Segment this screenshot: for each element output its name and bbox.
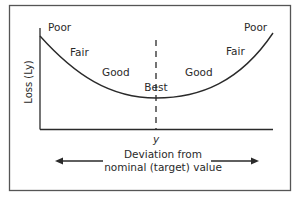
y-axis-label: Loss (Ly) <box>23 60 34 104</box>
zone-label-good-left: Good <box>102 66 130 78</box>
x-caption-line2: nominal (target) value <box>104 161 222 173</box>
x-caption-line1: Deviation from <box>124 148 202 160</box>
zone-label-good-right: Good <box>185 66 213 78</box>
zone-label-fair-left: Fair <box>70 46 89 58</box>
loss-function-diagram: Loss (Ly) Poor Fair Good Best Good Fair … <box>0 0 297 197</box>
zone-label-poor-left: Poor <box>48 21 72 33</box>
zone-label-poor-right: Poor <box>244 21 268 33</box>
target-tick-label: y <box>152 133 160 145</box>
zone-label-best: Best <box>144 81 167 93</box>
left-arrow-icon <box>55 158 103 165</box>
zone-label-fair-right: Fair <box>226 45 245 57</box>
